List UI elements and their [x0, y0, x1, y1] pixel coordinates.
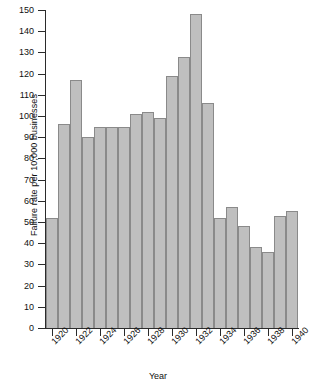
bar-chart: Failure rate per 10,000 businesses 01020…	[0, 0, 316, 382]
bar	[82, 137, 94, 328]
y-tick-label: 140	[0, 27, 34, 36]
bar	[154, 118, 166, 328]
y-tick-mark	[38, 222, 46, 223]
y-tick-mark	[38, 31, 46, 32]
y-tick-mark	[38, 243, 46, 244]
y-tick-label: 130	[0, 48, 34, 57]
bar	[238, 226, 250, 328]
bar	[130, 114, 142, 328]
bar	[46, 218, 58, 328]
bar	[214, 218, 226, 328]
y-tick-label: 60	[0, 197, 34, 206]
y-tick-mark	[38, 328, 46, 329]
bar-series	[46, 10, 298, 328]
bar	[106, 127, 118, 328]
y-tick-mark	[38, 286, 46, 287]
y-tick-mark	[38, 116, 46, 117]
y-tick-label: 110	[0, 91, 34, 100]
x-axis-title: Year	[0, 371, 316, 381]
y-tick-mark	[38, 264, 46, 265]
y-tick-label: 100	[0, 112, 34, 121]
y-tick-label: 20	[0, 282, 34, 291]
y-tick-label: 10	[0, 303, 34, 312]
y-tick-mark	[38, 10, 46, 11]
y-tick-label: 70	[0, 176, 34, 185]
y-tick-label: 150	[0, 6, 34, 15]
bar	[70, 80, 82, 328]
bar	[178, 57, 190, 328]
y-tick-mark	[38, 201, 46, 202]
bar	[94, 127, 106, 328]
plot-area	[46, 10, 298, 328]
y-tick-label: 90	[0, 133, 34, 142]
y-tick-mark	[38, 137, 46, 138]
y-tick-label: 50	[0, 218, 34, 227]
y-tick-label: 80	[0, 154, 34, 163]
y-tick-mark	[38, 74, 46, 75]
y-tick-mark	[38, 52, 46, 53]
bar	[58, 124, 70, 328]
y-tick-mark	[38, 180, 46, 181]
y-tick-label: 0	[0, 324, 34, 333]
bar	[142, 112, 154, 328]
bar	[274, 216, 286, 328]
y-tick-label: 120	[0, 70, 34, 79]
bar	[286, 211, 298, 328]
bar	[202, 103, 214, 328]
y-tick-mark	[38, 158, 46, 159]
bar	[190, 14, 202, 328]
y-tick-label: 40	[0, 239, 34, 248]
bar	[118, 127, 130, 328]
bar	[166, 76, 178, 328]
bar	[250, 247, 262, 328]
bar	[226, 207, 238, 328]
y-tick-mark	[38, 307, 46, 308]
bar	[262, 252, 274, 328]
y-tick-mark	[38, 95, 46, 96]
y-tick-label: 30	[0, 260, 34, 269]
